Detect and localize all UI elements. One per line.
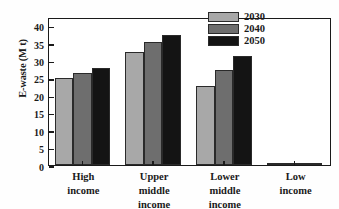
y-tick-label: 10 (34, 126, 44, 139)
legend-item[interactable]: 2040 (208, 23, 265, 35)
legend-label: 2030 (244, 11, 265, 23)
bar[interactable] (233, 56, 252, 165)
x-axis-tick (82, 161, 83, 166)
legend-label: 2050 (244, 35, 265, 47)
x-axis-tick (152, 161, 153, 166)
y-tick-label: 40 (34, 21, 44, 34)
y-tick-label: 5 (39, 143, 44, 156)
x-axis-tick (223, 161, 224, 166)
chart-figure: E-waste (M t) 0510152025303540 203020402… (0, 0, 339, 209)
y-tick-label: 15 (34, 108, 44, 121)
bar[interactable] (196, 86, 215, 165)
bar[interactable] (162, 35, 181, 165)
legend-swatch (208, 12, 239, 22)
bar[interactable] (125, 52, 144, 165)
bar-group (261, 19, 332, 165)
y-tick-mark (49, 166, 54, 167)
bar[interactable] (267, 163, 286, 165)
x-axis-tick (294, 161, 295, 166)
legend-label: 2040 (244, 23, 265, 35)
bar[interactable] (215, 70, 234, 165)
chart-legend: 203020402050 (208, 11, 265, 47)
y-axis-title: E-waste (M t) (17, 14, 28, 124)
plot-area: 0510152025303540 (48, 18, 331, 166)
legend-swatch (208, 24, 239, 34)
bar-group (120, 19, 191, 165)
bar[interactable] (144, 42, 163, 165)
legend-item[interactable]: 2030 (208, 11, 265, 23)
bar[interactable] (73, 73, 92, 165)
legend-item[interactable]: 2050 (208, 35, 265, 47)
y-tick-label: 20 (34, 91, 44, 104)
y-tick-label: 30 (34, 56, 44, 69)
bar[interactable] (92, 68, 111, 165)
x-axis-category-label: Low income (251, 170, 339, 198)
y-tick-label: 25 (34, 73, 44, 86)
bar[interactable] (304, 163, 323, 165)
legend-swatch (208, 36, 239, 46)
bar[interactable] (55, 78, 74, 165)
y-tick-label: 35 (34, 39, 44, 52)
bar-group (49, 19, 120, 165)
